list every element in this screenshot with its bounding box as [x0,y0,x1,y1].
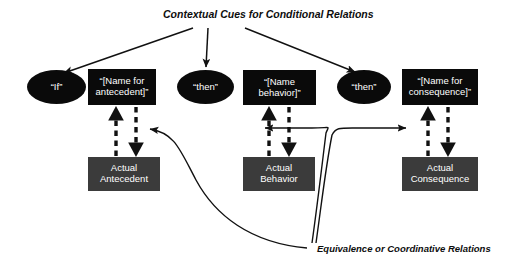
cue-node-then-1-label: “then” [193,82,218,93]
actual-node-antecedent[interactable]: Actual Antecedent [88,157,160,191]
cue-node-then-2[interactable]: “then” [337,70,391,104]
cue-node-then-1[interactable]: “then” [177,70,234,104]
cue-node-if[interactable]: “If” [27,70,86,104]
cue-node-name-antecedent-label: “[Name for antecedent]” [91,76,153,97]
cue-node-if-label: “If” [51,82,63,93]
cue-node-name-consequence-label: “[Name for consequence]” [405,76,475,97]
actual-node-behavior[interactable]: Actual Behavior [243,157,315,191]
cue-node-then-2-label: “then” [352,82,377,93]
cue-node-name-behavior-label: “[Name behavior]” [246,77,313,98]
cue-node-name-behavior[interactable]: “[Name behavior]” [243,70,316,105]
connector-layer [0,0,508,267]
diagram-canvas: Contextual Cues for Conditional Relation… [0,0,508,267]
title-arrow-left [64,28,193,73]
actual-node-consequence[interactable]: Actual Consequence [402,157,478,191]
cue-node-name-antecedent[interactable]: “[Name for antecedent]” [88,69,156,105]
title-arrow-right [245,28,355,72]
actual-node-antecedent-label: Actual Antecedent [91,163,157,184]
diagram-title: Contextual Cues for Conditional Relation… [163,8,374,20]
actual-node-behavior-label: Actual Behavior [246,163,312,184]
equivalence-relations-label: Equivalence or Coordinative Relations [317,243,491,254]
equivalence-curve-right [316,128,406,243]
cue-node-name-consequence[interactable]: “[Name for consequence]” [402,69,478,105]
title-arrow-center [206,28,208,67]
actual-node-consequence-label: Actual Consequence [405,163,475,184]
